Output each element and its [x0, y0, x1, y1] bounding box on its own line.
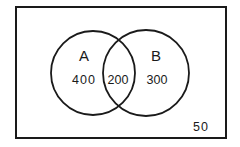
outside-count: 50 [193, 120, 209, 134]
set-b-only-count: 300 [147, 73, 168, 87]
set-a-label: A [79, 47, 89, 64]
set-a-only-count: 400 [72, 73, 96, 87]
set-b-label: B [151, 47, 161, 64]
intersection-count: 200 [108, 73, 129, 87]
venn-diagram: A B 400 200 300 50 [0, 0, 240, 147]
